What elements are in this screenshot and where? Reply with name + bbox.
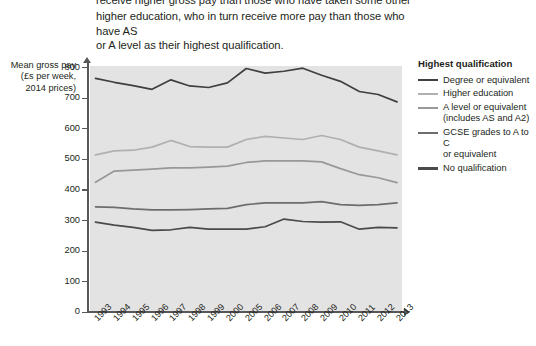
legend-item-label: A level or equivalent(includes AS and A2… [443,102,529,124]
legend-swatch-icon [418,132,438,134]
series-line [96,202,398,210]
chart-legend: Highest qualification Degree or equivale… [418,58,536,177]
legend-item-label: Higher education [443,88,513,99]
legend-item[interactable]: GCSE grades to A to Cor equivalent [418,127,536,159]
legend-swatch-icon [418,79,438,81]
legend-item-label: No qualification [443,163,507,174]
legend-swatch-icon [418,93,438,95]
legend-item[interactable]: Degree or equivalent [418,75,536,86]
legend-item-label: GCSE grades to A to Cor equivalent [443,127,536,159]
series-line [96,68,398,102]
series-line [96,219,398,230]
legend-item[interactable]: No qualification [418,163,536,174]
legend-item[interactable]: Higher education [418,88,536,99]
series-line [96,136,398,155]
chart-page: receive higher gross pay than those who … [0,0,536,346]
legend-swatch-icon [418,107,438,109]
legend-swatch-icon [418,167,438,169]
legend-item[interactable]: A level or equivalent(includes AS and A2… [418,102,536,124]
legend-title: Highest qualification [418,58,536,69]
legend-items: Degree or equivalentHigher educationA le… [418,75,536,174]
legend-item-label: Degree or equivalent [443,75,529,86]
series-line [96,161,398,183]
